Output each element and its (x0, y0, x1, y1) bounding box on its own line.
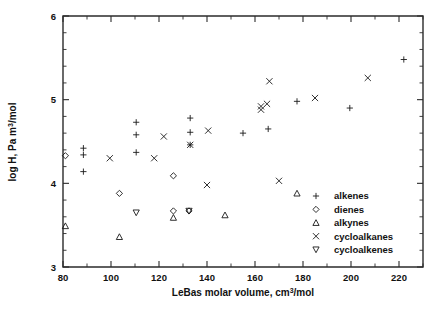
legend-label-alkynes: alkynes (334, 217, 369, 228)
chart-background (0, 0, 434, 311)
y-tick-label: 3 (51, 262, 56, 273)
legend-label-alkenes: alkenes (334, 190, 369, 201)
x-tick-label: 120 (151, 272, 167, 283)
y-tick-label: 4 (51, 178, 57, 189)
svg-text:log H, Pa m3/mol: log H, Pa m3/mol (7, 102, 19, 181)
x-tick-label: 180 (295, 272, 311, 283)
y-tick-label: 5 (51, 94, 57, 105)
scatter-chart-figure: 80100120140160180200220 3456 alkenesdien… (0, 0, 434, 311)
x-tick-label: 100 (103, 272, 119, 283)
x-tick-label: 160 (247, 272, 263, 283)
x-tick-label: 200 (343, 272, 359, 283)
x-tick-label: 220 (391, 272, 407, 283)
legend-label-cycloalkenes: cycloalkenes (334, 244, 393, 255)
legend-label-dienes: dienes (334, 204, 364, 215)
y-tick-label: 6 (51, 11, 56, 22)
legend-label-cycloalkanes: cycloalkanes (334, 231, 393, 242)
svg-text:LeBas molar volume, cm3/mol: LeBas molar volume, cm3/mol (172, 287, 315, 299)
x-axis-title: LeBas molar volume, cm3/mol (172, 287, 315, 299)
chart-canvas: 80100120140160180200220 3456 alkenesdien… (0, 0, 434, 311)
y-axis-title: log H, Pa m3/mol (7, 102, 19, 181)
x-tick-label: 80 (58, 272, 69, 283)
x-tick-label: 140 (199, 272, 215, 283)
